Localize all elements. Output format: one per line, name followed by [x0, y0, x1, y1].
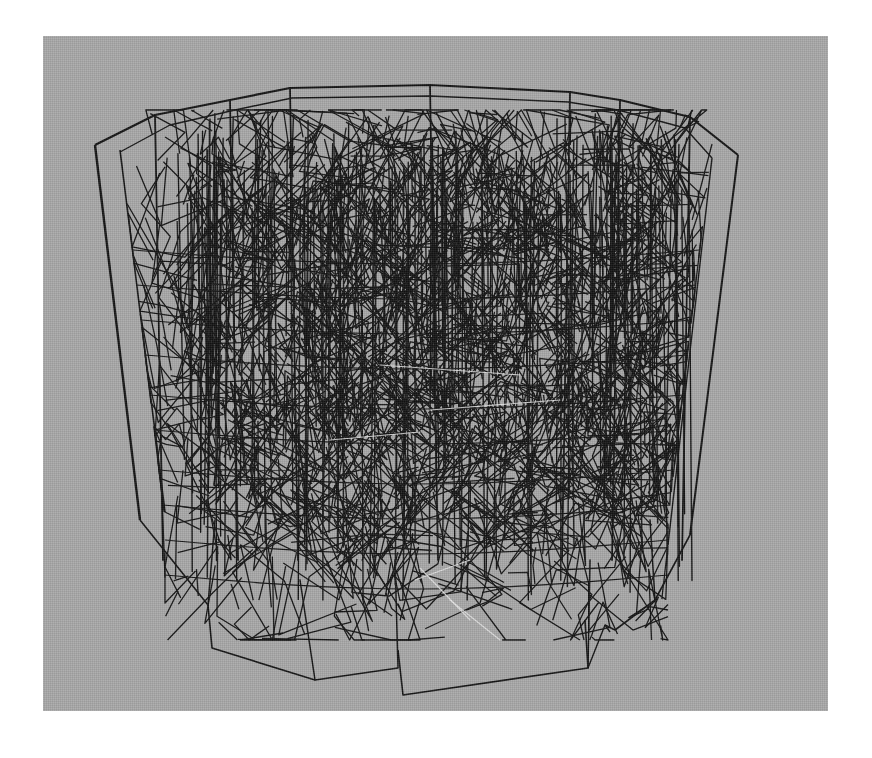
wireframe-render: [0, 0, 872, 758]
random-line-network: [127, 110, 712, 640]
